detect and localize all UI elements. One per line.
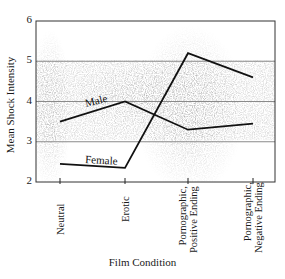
x-tick-label: Pornographic,Positive Ending: [177, 186, 199, 253]
x-tick-label: Erotic: [120, 196, 131, 222]
y-tick-label: 3: [22, 134, 32, 146]
y-axis-title: Mean Shock Intensity: [0, 30, 20, 180]
y-tick-label: 6: [22, 13, 32, 25]
y-tick-label: 2: [22, 174, 32, 186]
y-tick-label: 4: [22, 94, 32, 106]
x-axis-title: Film Condition: [0, 256, 285, 268]
y-tick-label: 5: [22, 53, 32, 65]
x-tick-label: Neutral: [55, 204, 66, 236]
x-tick-label: Pornographic,Negative Ending: [242, 182, 264, 253]
series-label-female: Female: [85, 153, 118, 167]
